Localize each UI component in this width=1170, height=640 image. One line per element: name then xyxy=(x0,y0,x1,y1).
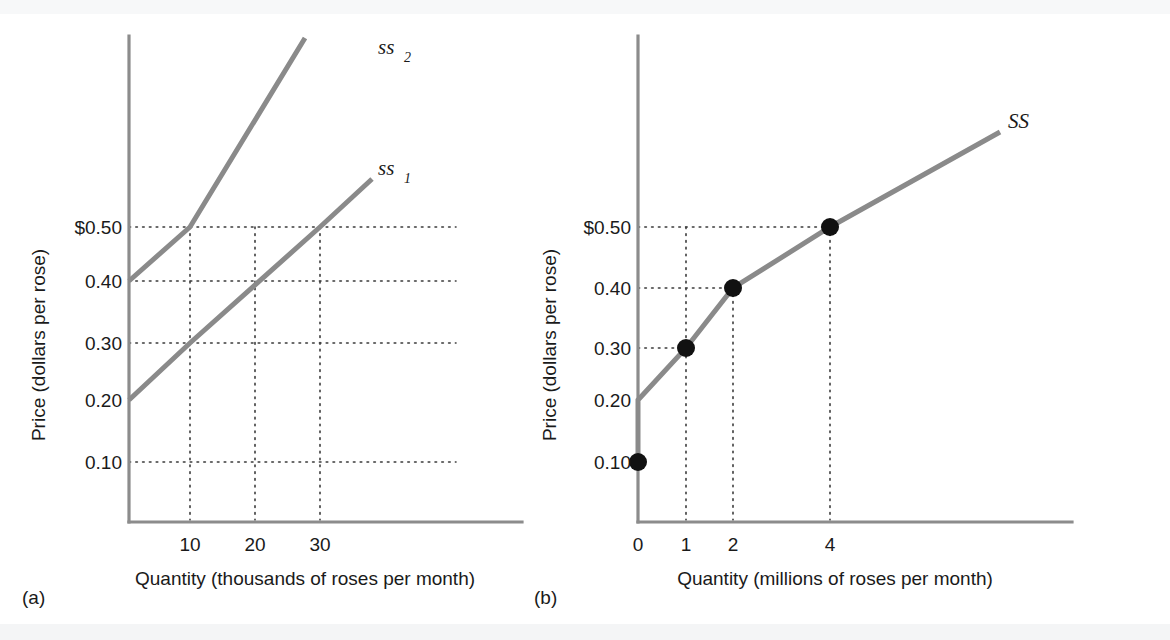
data-point-1-030 xyxy=(677,339,695,357)
curve-label-ss1-sub: 1 xyxy=(404,171,411,186)
x-tick-b-2: 2 xyxy=(728,534,739,555)
grid-horizontal-a xyxy=(129,227,456,462)
data-point-markers-b xyxy=(629,218,839,471)
y-tick-b-050: $0.50 xyxy=(583,217,631,238)
curve-label-ss2: ss 2 xyxy=(378,35,411,65)
y-tick-a-010: 0.10 xyxy=(85,452,122,473)
y-tick-a-040: 0.40 xyxy=(85,271,122,292)
x-tick-a-10: 10 xyxy=(179,534,200,555)
chart-panel-b: SS $0.50 0.40 0.30 0.20 0.10 0 1 2 4 Qua… xyxy=(534,36,1072,608)
grid-vertical-a xyxy=(190,227,320,520)
panel-label-a: (a) xyxy=(22,587,45,608)
curve-label-ss: SS xyxy=(1008,109,1030,133)
data-point-2-040 xyxy=(724,279,742,297)
y-tick-b-040: 0.40 xyxy=(594,278,631,299)
y-tick-labels-a: $0.50 0.40 0.30 0.20 0.10 xyxy=(74,217,122,473)
y-tick-b-020: 0.20 xyxy=(594,390,631,411)
x-tick-labels-b: 0 1 2 4 xyxy=(633,534,836,555)
x-tick-a-30: 30 xyxy=(309,534,330,555)
x-tick-labels-a: 10 20 30 xyxy=(179,534,330,555)
curve-ss xyxy=(638,132,1000,462)
data-point-0-010 xyxy=(629,453,647,471)
x-axis-title-a: Quantity (thousands of roses per month) xyxy=(135,568,475,589)
y-tick-a-020: 0.20 xyxy=(85,390,122,411)
x-axis-title-b: Quantity (millions of roses per month) xyxy=(677,568,993,589)
y-tick-labels-b: $0.50 0.40 0.30 0.20 0.10 xyxy=(583,217,631,473)
y-tick-b-030: 0.30 xyxy=(594,338,631,359)
panel-label-b: (b) xyxy=(534,587,557,608)
curve-ss2 xyxy=(129,38,305,281)
curve-label-ss1: ss 1 xyxy=(378,156,411,186)
chart-panel-a: ss 2 ss 1 $0.50 0.40 0.30 0.20 0.10 10 2… xyxy=(22,35,522,608)
y-tick-a-050: $0.50 xyxy=(74,217,122,238)
y-tick-b-010: 0.10 xyxy=(594,452,631,473)
x-tick-a-20: 20 xyxy=(244,534,265,555)
data-point-4-050 xyxy=(821,218,839,236)
y-axis-title-b: Price (dollars per rose) xyxy=(539,249,560,441)
x-tick-b-0: 0 xyxy=(633,534,644,555)
curve-label-ss2-main: ss xyxy=(378,35,394,59)
curve-label-ss1-main: ss xyxy=(378,156,394,180)
y-axis-title-a: Price (dollars per rose) xyxy=(28,249,49,441)
figure-canvas: ss 2 ss 1 $0.50 0.40 0.30 0.20 0.10 10 2… xyxy=(0,0,1170,640)
curve-label-ss2-sub: 2 xyxy=(404,50,411,65)
x-tick-b-1: 1 xyxy=(681,534,692,555)
y-tick-a-030: 0.30 xyxy=(85,333,122,354)
supply-curve-figure: ss 2 ss 1 $0.50 0.40 0.30 0.20 0.10 10 2… xyxy=(0,0,1170,640)
curve-ss1 xyxy=(129,179,372,400)
x-tick-b-4: 4 xyxy=(825,534,836,555)
